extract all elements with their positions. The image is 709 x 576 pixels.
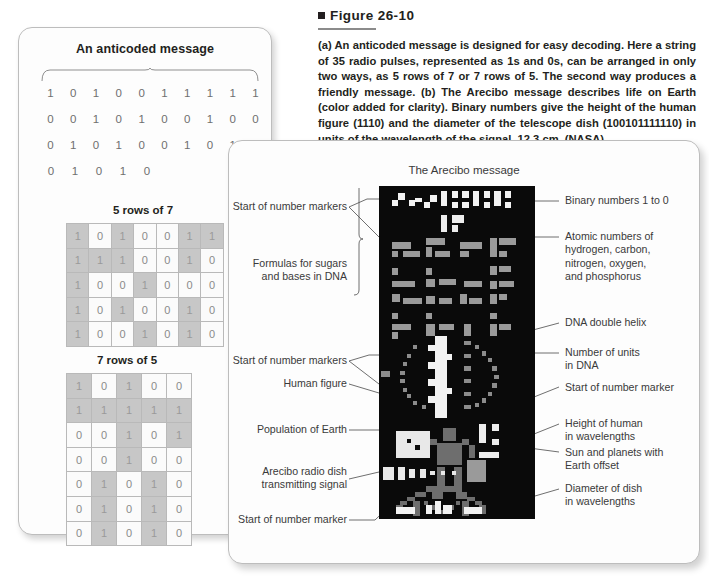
grid-5-rows-of-7: 10100111110010100100010100101001010 — [66, 223, 224, 347]
bit-grid-cell: 0 — [117, 497, 141, 521]
bit-string-cell: 1 — [63, 165, 87, 177]
bit-grid-cell: 1 — [67, 273, 88, 297]
bit-grid-cell: 0 — [112, 322, 133, 346]
bit-grid-cell: 1 — [67, 224, 88, 248]
bit-grid-cell: 0 — [89, 322, 110, 346]
bit-grid-cell: 0 — [117, 472, 141, 496]
bit-grid-cell: 0 — [157, 224, 178, 248]
bit-grid-cell: 0 — [142, 448, 166, 472]
grid-5x7-heading: 5 rows of 7 — [37, 204, 249, 216]
bit-grid-cell: 0 — [89, 298, 110, 322]
bit-grid-cell: 1 — [92, 399, 116, 423]
bit-grid-cell: 1 — [67, 298, 88, 322]
arecibo-title: The Arecibo message — [229, 164, 699, 176]
bit-grid-cell: 1 — [112, 224, 133, 248]
bit-string-cell: 0 — [244, 113, 267, 125]
arecibo-message-image — [379, 186, 535, 519]
bit-grid-cell: 0 — [112, 273, 133, 297]
bit-grid-cell: 1 — [179, 249, 200, 273]
bit-grid-cell: 0 — [167, 472, 191, 496]
bit-grid-cell: 0 — [167, 448, 191, 472]
bit-grid-cell: 0 — [134, 298, 155, 322]
bit-string-cell: 1 — [176, 87, 199, 99]
callout-left-formulas-for-sugars: Formulas for sugars and bases in DNA — [229, 257, 347, 284]
bit-grid-cell: 1 — [179, 322, 200, 346]
bit-string-cell: 1 — [130, 113, 153, 125]
bit-string-cell: 1 — [221, 87, 244, 99]
callout-right-binary-numbers: Binary numbers 1 to 0 — [565, 194, 699, 207]
figure-title: Figure 26-10 — [318, 8, 696, 23]
bit-grid-cell: 1 — [142, 472, 166, 496]
callout-right-sun-and-planets: Sun and planets with Earth offset — [565, 446, 699, 473]
bit-grid-cell: 1 — [117, 399, 141, 423]
bit-grid-cell: 0 — [157, 322, 178, 346]
bit-string-cell: 1 — [85, 87, 108, 99]
callout-right-height-of-human: Height of human in wavelengths — [565, 417, 699, 444]
bit-string-cell: 0 — [135, 165, 159, 177]
bit-grid-cell: 0 — [89, 224, 110, 248]
figure-caption-block: Figure 26-10 (a) An anticoded message is… — [318, 8, 696, 147]
bit-string-cell: 0 — [130, 87, 153, 99]
bit-grid-cell: 0 — [134, 249, 155, 273]
bit-string-cell: 1 — [62, 139, 85, 151]
bit-grid-cell: 1 — [67, 374, 91, 398]
bit-grid-cell: 1 — [167, 423, 191, 447]
bit-grid-cell: 0 — [167, 497, 191, 521]
bit-grid-cell: 0 — [142, 423, 166, 447]
bit-grid-cell: 1 — [89, 249, 110, 273]
figure-bullet-icon — [318, 12, 325, 19]
bit-string-cell: 0 — [87, 165, 111, 177]
bit-grid-cell: 0 — [67, 497, 91, 521]
callout-left-human-figure: Human figure — [229, 377, 347, 390]
bit-grid-cell: 0 — [89, 273, 110, 297]
bit-grid-cell: 1 — [67, 399, 91, 423]
bit-grid-cell: 1 — [142, 399, 166, 423]
bit-string-cell: 0 — [107, 87, 130, 99]
bit-grid-cell: 1 — [167, 399, 191, 423]
figure-rule-divider — [318, 28, 376, 30]
bit-string-cell: 1 — [199, 113, 222, 125]
bit-string-cell: 1 — [107, 139, 130, 151]
bit-grid-cell: 1 — [179, 298, 200, 322]
bit-grid-cell: 1 — [134, 322, 155, 346]
bit-string-cell: 0 — [62, 113, 85, 125]
bit-string-cell: 1 — [244, 87, 267, 99]
callout-left-start-of-number-markers-2: Start of number markers — [229, 354, 347, 367]
bit-grid-cell: 0 — [179, 273, 200, 297]
bit-string-cell: 1 — [111, 165, 135, 177]
bit-string-cell: 0 — [85, 139, 108, 151]
bit-grid-cell: 0 — [134, 224, 155, 248]
bit-grid-cell: 1 — [117, 374, 141, 398]
callout-left-arecibo-radio-dish: Arecibo radio dish transmitting signal — [229, 465, 347, 492]
bit-grid-cell: 0 — [67, 522, 91, 546]
bit-string-cell: 1 — [176, 139, 199, 151]
callout-right-atomic-numbers: Atomic numbers of hydrogen, carbon, nitr… — [565, 230, 699, 284]
bit-string-cell: 1 — [85, 113, 108, 125]
bit-grid-cell: 1 — [92, 472, 116, 496]
bit-string-cell: 1 — [39, 87, 62, 99]
bit-grid-cell: 1 — [142, 522, 166, 546]
bit-grid-cell: 1 — [142, 497, 166, 521]
bit-string-cell: 0 — [62, 87, 85, 99]
bit-grid-cell: 0 — [157, 249, 178, 273]
bit-string-row: 1010011111 — [39, 80, 267, 106]
bit-string-cell: 0 — [153, 113, 176, 125]
bit-grid-cell: 0 — [117, 522, 141, 546]
figure-title-text: Figure 26-10 — [330, 8, 414, 23]
bit-grid-cell: 0 — [201, 249, 222, 273]
bit-grid-cell: 0 — [201, 273, 222, 297]
figure-caption-text: (a) An anticoded message is designed for… — [318, 38, 696, 147]
bit-string-cell: 0 — [130, 139, 153, 151]
bit-string-cell: 0 — [176, 113, 199, 125]
grid-7x5-heading: 7 rows of 5 — [37, 354, 217, 366]
bit-string-cell: 0 — [199, 139, 222, 151]
bit-grid-cell: 0 — [167, 374, 191, 398]
callout-left-start-of-number-marker: Start of number marker — [229, 513, 347, 526]
bit-grid-cell: 1 — [117, 448, 141, 472]
bit-grid-cell: 1 — [134, 273, 155, 297]
bit-grid-cell: 0 — [92, 423, 116, 447]
bit-grid-cell: 1 — [67, 249, 88, 273]
bit-string-cell: 1 — [153, 87, 176, 99]
bit-string-cell: 0 — [221, 113, 244, 125]
callout-left-start-of-number-markers-1: Start of number markers — [229, 200, 347, 213]
